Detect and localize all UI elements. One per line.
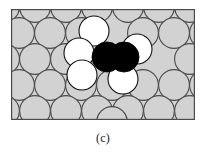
- defect-core-atom: [109, 42, 139, 72]
- substrate-atom: [20, 96, 51, 120]
- substrate-atom: [144, 96, 175, 120]
- adsorbed-atom: [67, 60, 97, 90]
- lattice-panel: [11, 9, 195, 120]
- panel-caption: (c): [96, 131, 110, 145]
- core-atom-layer: [92, 42, 139, 72]
- substrate-atom: [159, 18, 190, 49]
- substrate-atom: [51, 96, 82, 120]
- figure-root: (c): [0, 0, 206, 154]
- lattice-diagram: [11, 9, 195, 120]
- caption-row: (c): [0, 128, 206, 146]
